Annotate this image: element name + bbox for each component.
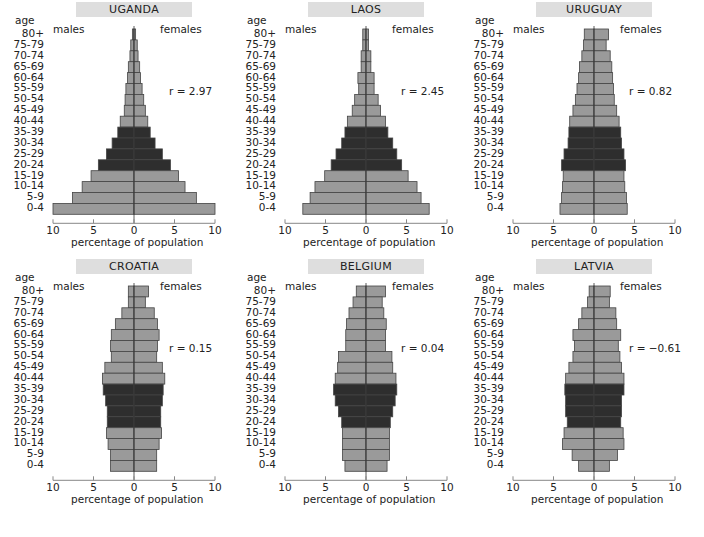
female-bar [594, 406, 622, 417]
female-bar [366, 395, 395, 406]
male-bar [567, 417, 594, 428]
male-bar [361, 62, 366, 73]
female-bar [594, 149, 624, 160]
male-bar [334, 384, 366, 395]
female-bar [594, 203, 627, 214]
female-bar [594, 171, 624, 182]
female-bar [134, 40, 137, 51]
female-bar [366, 308, 384, 319]
male-bar [566, 395, 594, 406]
male-bar [82, 182, 134, 193]
male-bar [564, 428, 594, 439]
female-bar [594, 384, 624, 395]
female-bar [366, 330, 385, 341]
female-bar [134, 138, 155, 149]
male-bar [582, 308, 594, 319]
female-bar [134, 286, 149, 297]
female-bar [594, 362, 622, 373]
male-bar [566, 373, 594, 384]
female-bar [594, 395, 622, 406]
female-bar [594, 29, 609, 40]
male-bar [564, 149, 594, 160]
female-bar [134, 341, 157, 352]
male-bar [102, 373, 134, 384]
x-tick-label: 5 [318, 224, 334, 236]
male-bar [572, 450, 594, 461]
male-bar [336, 149, 366, 160]
female-bar [594, 351, 620, 362]
female-bar [594, 138, 622, 149]
female-bar [366, 460, 387, 471]
x-tick-label: 10 [505, 481, 521, 493]
x-tick-label: 10 [277, 224, 293, 236]
female-bar [366, 384, 397, 395]
x-axis-label: percentage of population [303, 236, 429, 248]
male-bar [343, 439, 366, 450]
male-bar [562, 439, 594, 450]
male-bar [358, 73, 366, 84]
x-tick-label: 5 [627, 224, 643, 236]
female-bar [134, 428, 162, 439]
male-bar [345, 127, 366, 138]
female-bar [134, 149, 162, 160]
male-bar [588, 297, 594, 308]
male-bar [565, 384, 594, 395]
female-bar [134, 84, 142, 95]
male-bar [338, 362, 366, 373]
male-bar [331, 160, 366, 171]
male-bar [345, 460, 366, 471]
female-bar [366, 127, 388, 138]
male-bar [569, 127, 594, 138]
female-bar [594, 51, 610, 62]
female-bar [134, 417, 161, 428]
x-tick-label: 10 [207, 481, 223, 493]
female-bar [594, 105, 617, 116]
female-bar [366, 439, 389, 450]
female-bar [134, 308, 154, 319]
male-bar [325, 171, 366, 182]
country-title: LATVIA [536, 259, 652, 274]
x-tick-label: 10 [667, 224, 683, 236]
x-tick-label: 10 [505, 224, 521, 236]
x-tick-label: 0 [586, 224, 602, 236]
male-bar [118, 127, 134, 138]
female-bar [366, 51, 371, 62]
pyramid-latvia: LATVIAage80+75-7970-7465-6960-6455-5950-… [464, 279, 694, 537]
male-bar [335, 395, 366, 406]
male-bar [568, 138, 594, 149]
country-title: LAOS [308, 2, 424, 17]
male-bar [338, 406, 366, 417]
female-bar [594, 428, 623, 439]
female-bar [366, 450, 389, 461]
male-bar [128, 286, 134, 297]
male-bar [353, 297, 366, 308]
country-title: UGANDA [76, 2, 192, 17]
male-bar [338, 351, 366, 362]
female-bar [134, 297, 145, 308]
female-bar [366, 62, 371, 73]
country-title: CROATIA [76, 259, 192, 274]
male-bar [560, 203, 594, 214]
female-bar [134, 460, 157, 471]
male-bar [349, 308, 366, 319]
male-bar [106, 395, 134, 406]
pyramid-bars [4, 279, 234, 519]
female-bar [134, 94, 144, 105]
female-bar [594, 84, 613, 95]
female-bar [594, 286, 610, 297]
pyramid-croatia: CROATIAage80+75-7970-7465-6960-6455-5950… [4, 279, 234, 537]
male-bar [115, 319, 134, 330]
male-bar [346, 330, 366, 341]
female-bar [366, 182, 417, 193]
x-tick-label: 10 [277, 481, 293, 493]
male-bar [584, 29, 594, 40]
pyramid-bars [236, 22, 466, 262]
x-tick-label: 10 [45, 224, 61, 236]
male-bar [342, 417, 366, 428]
male-bar [356, 286, 366, 297]
x-tick-label: 5 [86, 224, 102, 236]
male-bar [566, 406, 594, 417]
x-axis-label: percentage of population [71, 493, 197, 505]
female-bar [134, 160, 170, 171]
male-bar [130, 51, 134, 62]
